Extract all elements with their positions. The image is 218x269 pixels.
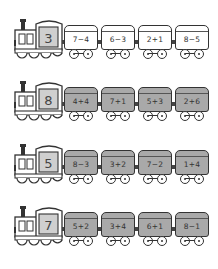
wagon: 6+1 bbox=[138, 212, 172, 251]
wagon: 5+3 bbox=[138, 87, 172, 126]
wagon-label: 5+3 bbox=[139, 97, 171, 106]
wagon: 4+4 bbox=[64, 87, 98, 126]
wagon: 8−3 bbox=[64, 150, 98, 189]
train-row-2: 8 4+4 7+1 5+3 2+6 bbox=[14, 78, 214, 126]
wagon: 8−1 bbox=[175, 212, 209, 251]
wheels-icon bbox=[143, 49, 169, 61]
wheels-icon bbox=[180, 111, 206, 123]
wheels-icon bbox=[69, 111, 95, 123]
wagon-label: 3+4 bbox=[102, 222, 134, 231]
wagon-label: 3+2 bbox=[102, 160, 134, 169]
train-row-4: 7 5+2 3+4 6+1 8−1 bbox=[14, 203, 214, 251]
wagon: 7−2 bbox=[138, 150, 172, 189]
wagon: 2+6 bbox=[175, 87, 209, 126]
wagon-label: 6+1 bbox=[139, 222, 171, 231]
wagon-label: 6−3 bbox=[102, 35, 134, 44]
wagon-label: 7−4 bbox=[65, 35, 97, 44]
engine-number: 5 bbox=[44, 156, 52, 171]
locomotive-icon: 7 bbox=[14, 203, 64, 251]
wheels-icon bbox=[69, 236, 95, 248]
wagon-label: 5+2 bbox=[65, 222, 97, 231]
wagon: 8−5 bbox=[175, 25, 209, 64]
wheels-icon bbox=[106, 111, 132, 123]
train-row-3: 5 8−3 3+2 7−2 1+4 bbox=[14, 141, 214, 189]
locomotive-icon: 8 bbox=[14, 78, 64, 126]
wagon-label: 4+4 bbox=[65, 97, 97, 106]
wheels-icon bbox=[106, 49, 132, 61]
wagon: 7+1 bbox=[101, 87, 135, 126]
wagon: 5+2 bbox=[64, 212, 98, 251]
wagon-label: 7−2 bbox=[139, 160, 171, 169]
wagon: 6−3 bbox=[101, 25, 135, 64]
wheels-icon bbox=[143, 236, 169, 248]
locomotive-icon: 5 bbox=[14, 141, 64, 189]
wagon-label: 7+1 bbox=[102, 97, 134, 106]
engine-number: 8 bbox=[44, 93, 52, 108]
wagon-label: 2+1 bbox=[139, 35, 171, 44]
wagon-label: 8−3 bbox=[65, 160, 97, 169]
wagon: 3+2 bbox=[101, 150, 135, 189]
locomotive-icon: 3 bbox=[14, 16, 64, 64]
wheels-icon bbox=[180, 236, 206, 248]
wheels-icon bbox=[106, 174, 132, 186]
wheels-icon bbox=[180, 174, 206, 186]
wheels-icon bbox=[69, 49, 95, 61]
wagon-label: 8−5 bbox=[176, 35, 208, 44]
wagon: 7−4 bbox=[64, 25, 98, 64]
engine-number: 7 bbox=[44, 218, 52, 233]
wagon: 3+4 bbox=[101, 212, 135, 251]
wagon: 1+4 bbox=[175, 150, 209, 189]
wheels-icon bbox=[143, 111, 169, 123]
wheels-icon bbox=[106, 236, 132, 248]
wheels-icon bbox=[143, 174, 169, 186]
engine-number: 3 bbox=[44, 31, 52, 46]
wheels-icon bbox=[69, 174, 95, 186]
wheels-icon bbox=[180, 49, 206, 61]
wagon-label: 2+6 bbox=[176, 97, 208, 106]
train-row-1: 3 7−4 6−3 2+1 8−5 bbox=[14, 16, 214, 64]
wagon-label: 8−1 bbox=[176, 222, 208, 231]
wagon: 2+1 bbox=[138, 25, 172, 64]
wagon-label: 1+4 bbox=[176, 160, 208, 169]
